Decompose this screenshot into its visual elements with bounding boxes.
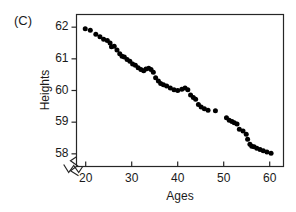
x-tick-label: 50 (210, 171, 238, 185)
data-point (245, 137, 250, 142)
data-point (213, 108, 218, 113)
y-axis-title: Heights (38, 60, 52, 120)
data-point (244, 132, 249, 137)
data-point (235, 122, 240, 127)
x-tick-label: 30 (118, 171, 146, 185)
y-tick-label: 58 (55, 146, 68, 160)
panel-label: (C) (14, 13, 32, 28)
data-point (193, 97, 198, 102)
data-point (83, 26, 88, 31)
data-point (151, 70, 156, 75)
data-point (206, 108, 211, 113)
data-point (185, 87, 190, 92)
data-point (88, 28, 93, 33)
data-point (269, 151, 274, 156)
y-tick-label: 61 (55, 51, 68, 65)
x-axis-title: Ages (140, 189, 220, 203)
data-point (93, 32, 98, 37)
x-tick-label: 40 (164, 171, 192, 185)
y-tick-label: 59 (55, 114, 68, 128)
y-axis-ticks (72, 27, 77, 154)
scatter-plot-figure: (C) 5859606162 2030405060 Heights Ages (0, 0, 296, 212)
data-point-group (83, 26, 274, 155)
x-tick-label: 20 (72, 171, 100, 185)
x-axis-ticks (86, 162, 270, 167)
y-tick-label: 60 (55, 83, 68, 97)
y-tick-label: 62 (55, 19, 68, 33)
x-tick-label: 60 (256, 171, 284, 185)
